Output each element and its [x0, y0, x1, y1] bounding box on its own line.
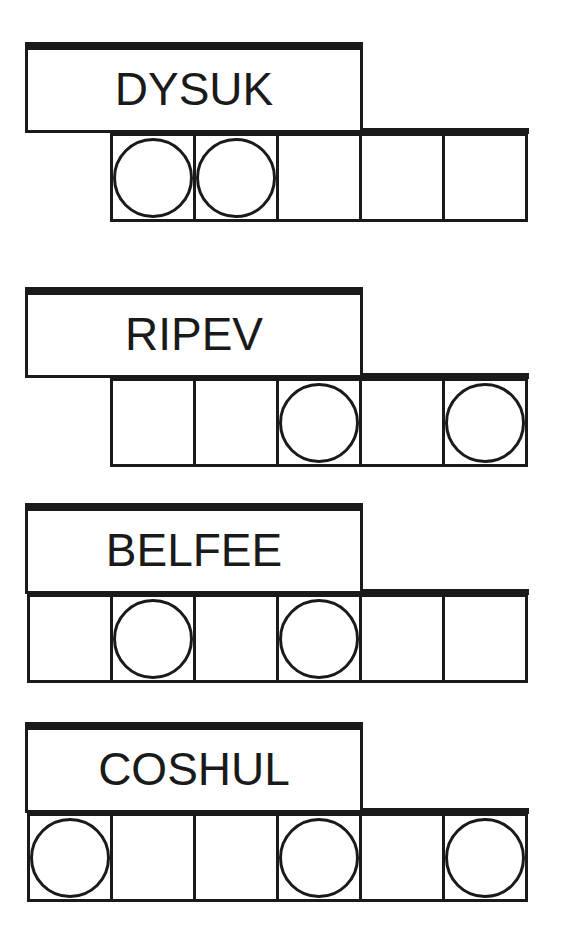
answer-letter-cell[interactable]	[279, 816, 362, 899]
scrambled-word-box: RIPEV	[25, 287, 363, 378]
answer-letter-cell[interactable]	[113, 597, 196, 680]
answer-letter-cell[interactable]	[196, 136, 279, 219]
circle-marker-icon	[279, 383, 359, 463]
answer-letter-cell[interactable]	[445, 381, 528, 464]
circle-marker-icon	[279, 599, 359, 679]
answer-grid	[27, 594, 528, 683]
answer-letter-cell[interactable]	[279, 381, 362, 464]
answer-letter-cell[interactable]	[196, 816, 279, 899]
scrambled-word: RIPEV	[125, 311, 263, 357]
answer-letter-cell[interactable]	[30, 597, 113, 680]
circle-marker-icon	[196, 138, 276, 218]
answer-letter-cell[interactable]	[196, 381, 279, 464]
answer-letter-cell[interactable]	[196, 597, 279, 680]
answer-grid	[110, 378, 528, 467]
scrambled-word: DYSUK	[115, 66, 273, 112]
answer-letter-cell[interactable]	[30, 816, 113, 899]
answer-letter-cell[interactable]	[362, 381, 445, 464]
circle-marker-icon	[113, 599, 193, 679]
answer-letter-cell[interactable]	[445, 597, 528, 680]
circle-marker-icon	[113, 138, 193, 218]
circle-marker-icon	[445, 383, 525, 463]
answer-letter-cell[interactable]	[113, 136, 196, 219]
scrambled-word-box: BELFEE	[25, 503, 363, 594]
circle-marker-icon	[30, 818, 110, 898]
answer-letter-cell[interactable]	[362, 816, 445, 899]
circle-marker-icon	[445, 818, 525, 898]
clipped-instruction-text	[0, 0, 568, 6]
answer-letter-cell[interactable]	[362, 136, 445, 219]
answer-grid	[110, 133, 528, 222]
answer-grid	[27, 813, 528, 902]
scrambled-word-box: COSHUL	[25, 722, 363, 813]
scrambled-word: COSHUL	[98, 746, 290, 792]
circle-marker-icon	[279, 818, 359, 898]
scrambled-word: BELFEE	[106, 527, 282, 573]
scrambled-word-box: DYSUK	[25, 42, 363, 133]
answer-letter-cell[interactable]	[445, 136, 528, 219]
answer-letter-cell[interactable]	[113, 816, 196, 899]
answer-letter-cell[interactable]	[362, 597, 445, 680]
answer-letter-cell[interactable]	[113, 381, 196, 464]
answer-letter-cell[interactable]	[445, 816, 528, 899]
answer-letter-cell[interactable]	[279, 597, 362, 680]
answer-letter-cell[interactable]	[279, 136, 362, 219]
